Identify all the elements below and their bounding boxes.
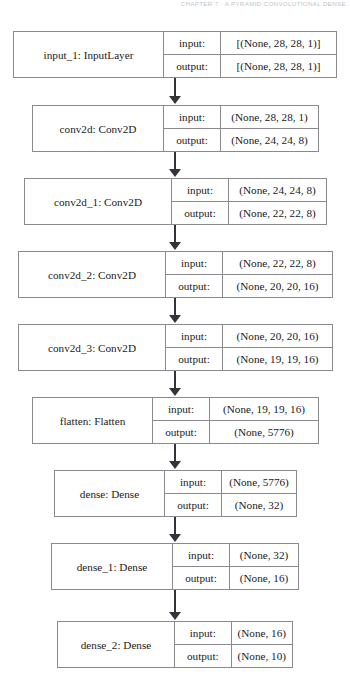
layer-name-dense_2: dense_2: Dense xyxy=(58,622,175,667)
output-shape-input_1: [(None, 28, 28, 1)] xyxy=(221,55,336,78)
connector-conv2d_2-to-conv2d_3 xyxy=(174,298,176,316)
output-label: output: xyxy=(166,275,222,298)
layer-node-dense: dense: Denseinput:output:(None, 5776)(No… xyxy=(54,470,297,517)
input-label: input: xyxy=(166,325,222,348)
arrowhead-conv2d_1-to-conv2d_2 xyxy=(169,242,181,250)
input-label: input: xyxy=(172,179,228,202)
output-shape-conv2d_3: (None, 19, 19, 16) xyxy=(223,348,332,371)
output-label: output: xyxy=(175,645,230,668)
input-shape-conv2d_1: (None, 24, 24, 8) xyxy=(229,179,326,202)
output-shape-dense: (None, 32) xyxy=(222,494,296,517)
output-shape-conv2d_2: (None, 20, 20, 16) xyxy=(223,275,332,298)
layer-node-input_1: input_1: InputLayerinput:output:[(None, … xyxy=(13,31,337,78)
output-label: output: xyxy=(172,202,228,225)
input-shape-flatten: (None, 19, 19, 16) xyxy=(210,398,318,421)
layer-name-dense: dense: Dense xyxy=(55,471,165,516)
arrowhead-flatten-to-dense xyxy=(169,461,181,469)
output-label: output: xyxy=(166,348,222,371)
io-label-column: input:output: xyxy=(166,325,223,370)
shape-column: (None, 5776)(None, 32) xyxy=(222,471,296,516)
layer-name-dense_1: dense_1: Dense xyxy=(52,544,173,589)
connector-dense-to-dense_1 xyxy=(174,517,176,535)
input-label: input: xyxy=(173,544,229,567)
connector-input_1-to-conv2d xyxy=(174,78,176,97)
layer-name-conv2d_3: conv2d_3: Conv2D xyxy=(19,325,166,370)
output-label: output: xyxy=(164,129,220,152)
io-label-column: input:output: xyxy=(173,544,230,589)
input-shape-conv2d: (None, 28, 28, 1) xyxy=(221,106,318,129)
output-shape-conv2d: (None, 24, 24, 8) xyxy=(221,129,318,152)
output-label: output: xyxy=(164,55,220,78)
connector-conv2d-to-conv2d_1 xyxy=(174,152,176,170)
layer-name-input_1: input_1: InputLayer xyxy=(14,32,164,77)
layer-node-flatten: flatten: Flatteninput:output:(None, 19, … xyxy=(32,397,319,444)
layer-node-conv2d_2: conv2d_2: Conv2Dinput:output:(None, 22, … xyxy=(18,251,333,298)
io-label-column: input:output: xyxy=(172,179,229,224)
layer-name-conv2d: conv2d: Conv2D xyxy=(33,106,164,151)
arrowhead-conv2d-to-conv2d_1 xyxy=(169,169,181,177)
input-label: input: xyxy=(165,471,221,494)
io-label-column: input:output: xyxy=(175,622,231,667)
input-label: input: xyxy=(153,398,209,421)
output-label: output: xyxy=(165,494,221,517)
io-label-column: input:output: xyxy=(166,252,223,297)
io-label-column: input:output: xyxy=(153,398,210,443)
layer-name-conv2d_2: conv2d_2: Conv2D xyxy=(19,252,166,297)
output-shape-conv2d_1: (None, 22, 22, 8) xyxy=(229,202,326,225)
layer-name-conv2d_1: conv2d_1: Conv2D xyxy=(25,179,172,224)
arrowhead-dense-to-dense_1 xyxy=(169,534,181,542)
shape-column: (None, 24, 24, 8)(None, 22, 22, 8) xyxy=(229,179,326,224)
connector-flatten-to-dense xyxy=(174,444,176,462)
connector-conv2d_3-to-flatten xyxy=(174,371,176,389)
output-shape-flatten: (None, 5776) xyxy=(210,421,318,444)
output-label: output: xyxy=(153,421,209,444)
shape-column: (None, 16)(None, 10) xyxy=(232,622,292,667)
layer-node-dense_1: dense_1: Denseinput:output:(None, 32)(No… xyxy=(51,543,299,590)
layer-node-conv2d_3: conv2d_3: Conv2Dinput:output:(None, 20, … xyxy=(18,324,333,371)
arrowhead-input_1-to-conv2d xyxy=(169,96,181,104)
input-label: input: xyxy=(164,32,220,55)
input-shape-conv2d_3: (None, 20, 20, 16) xyxy=(223,325,332,348)
output-shape-dense_1: (None, 16) xyxy=(230,567,298,590)
shape-column: (None, 19, 19, 16)(None, 5776) xyxy=(210,398,318,443)
input-label: input: xyxy=(166,252,222,275)
input-shape-input_1: [(None, 28, 28, 1)] xyxy=(221,32,336,55)
input-label: input: xyxy=(175,622,230,645)
shape-column: (None, 22, 22, 8)(None, 20, 20, 16) xyxy=(223,252,332,297)
input-label: input: xyxy=(164,106,220,129)
input-shape-dense_2: (None, 16) xyxy=(232,622,292,645)
shape-column: (None, 32)(None, 16) xyxy=(230,544,298,589)
input-shape-conv2d_2: (None, 22, 22, 8) xyxy=(223,252,332,275)
layer-name-flatten: flatten: Flatten xyxy=(33,398,153,443)
io-label-column: input:output: xyxy=(164,32,221,77)
layer-node-conv2d_1: conv2d_1: Conv2Dinput:output:(None, 24, … xyxy=(24,178,327,225)
arrowhead-conv2d_2-to-conv2d_3 xyxy=(169,315,181,323)
output-label: output: xyxy=(173,567,229,590)
shape-column: (None, 28, 28, 1)(None, 24, 24, 8) xyxy=(221,106,318,151)
connector-conv2d_1-to-conv2d_2 xyxy=(174,225,176,243)
input-shape-dense_1: (None, 32) xyxy=(230,544,298,567)
output-shape-dense_2: (None, 10) xyxy=(232,645,292,668)
input-shape-dense: (None, 5776) xyxy=(222,471,296,494)
io-label-column: input:output: xyxy=(164,106,221,151)
model-architecture-diagram: input_1: InputLayerinput:output:[(None, … xyxy=(0,0,350,685)
arrowhead-dense_1-to-dense_2 xyxy=(169,612,181,620)
io-label-column: input:output: xyxy=(165,471,222,516)
shape-column: [(None, 28, 28, 1)][(None, 28, 28, 1)] xyxy=(221,32,336,77)
layer-node-conv2d: conv2d: Conv2Dinput:output:(None, 28, 28… xyxy=(32,105,319,152)
shape-column: (None, 20, 20, 16)(None, 19, 19, 16) xyxy=(223,325,332,370)
connector-dense_1-to-dense_2 xyxy=(174,590,176,613)
layer-node-dense_2: dense_2: Denseinput:output:(None, 16)(No… xyxy=(57,621,293,668)
arrowhead-conv2d_3-to-flatten xyxy=(169,388,181,396)
